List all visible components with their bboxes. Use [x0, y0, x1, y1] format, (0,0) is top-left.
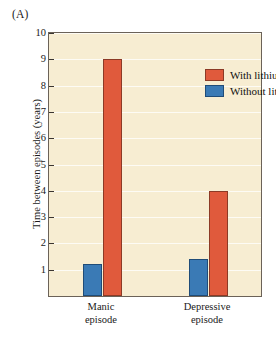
legend-item-label: Without lithium	[230, 85, 276, 97]
x-axis-labels: ManicepisodeDepressiveepisode	[48, 300, 262, 344]
bar-with-lithium-depressive	[209, 191, 228, 296]
bar-without-lithium-depressive	[189, 259, 208, 296]
plot-area: 12345678910 With lithiumWithout lithium	[48, 32, 262, 297]
x-axis-group-label-line2: episode	[184, 313, 231, 326]
legend-item: Without lithium	[205, 85, 276, 97]
x-axis-group-label-line1: Depressive	[184, 300, 231, 313]
x-axis-group-label-line2: episode	[85, 313, 117, 326]
legend-item-label: With lithium	[230, 69, 276, 81]
bar-without-lithium-manic	[83, 264, 102, 296]
x-axis-group-label-line1: Manic	[85, 300, 117, 313]
chart-legend: With lithiumWithout lithium	[205, 69, 276, 97]
y-axis-title: Time between episodes (years)	[31, 32, 42, 295]
legend-item: With lithium	[205, 69, 276, 81]
legend-swatch-icon	[205, 85, 224, 97]
figure-panel-a: (A) 12345678910 With lithiumWithout lith…	[0, 0, 276, 346]
x-axis-group-label: Manicepisode	[85, 300, 117, 326]
bar-with-lithium-manic	[103, 59, 122, 296]
legend-swatch-icon	[205, 69, 224, 81]
x-axis-group-label: Depressiveepisode	[184, 300, 231, 326]
panel-label: (A)	[12, 8, 29, 20]
